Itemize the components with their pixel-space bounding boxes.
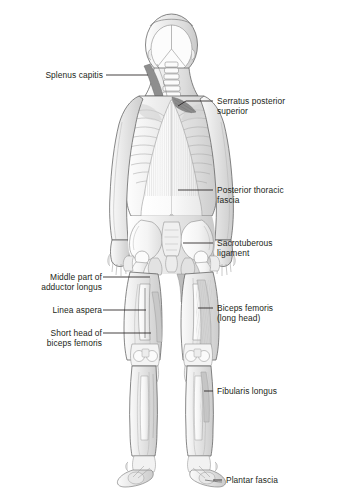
left-leg — [130, 366, 158, 456]
left-foot — [117, 456, 155, 487]
fibularis-longus-muscle — [200, 372, 210, 422]
label-middle-part-adductor-longus: Middle part of adductor longus — [8, 272, 102, 293]
label-sacrotuberous-ligament: Sacrotuberous ligament — [217, 238, 339, 259]
label-posterior-thoracic-fascia: Posterior thoracic fascia — [217, 185, 339, 206]
label-splenus-capitis: Splenus capitis — [8, 70, 103, 80]
right-leg — [186, 366, 214, 456]
label-biceps-femoris-long-head: Biceps femoris (long head) — [217, 303, 339, 324]
right-foot — [188, 456, 226, 487]
label-short-head-biceps-femoris: Short head of biceps femoris — [8, 328, 102, 349]
label-plantar-fascia: Plantar fascia — [226, 475, 338, 485]
label-serratus-posterior-superior: Serratus posterior superior — [217, 96, 339, 117]
label-fibularis-longus: Fibularis longus — [217, 386, 339, 396]
label-linea-aspera: Linea aspera — [8, 305, 102, 315]
